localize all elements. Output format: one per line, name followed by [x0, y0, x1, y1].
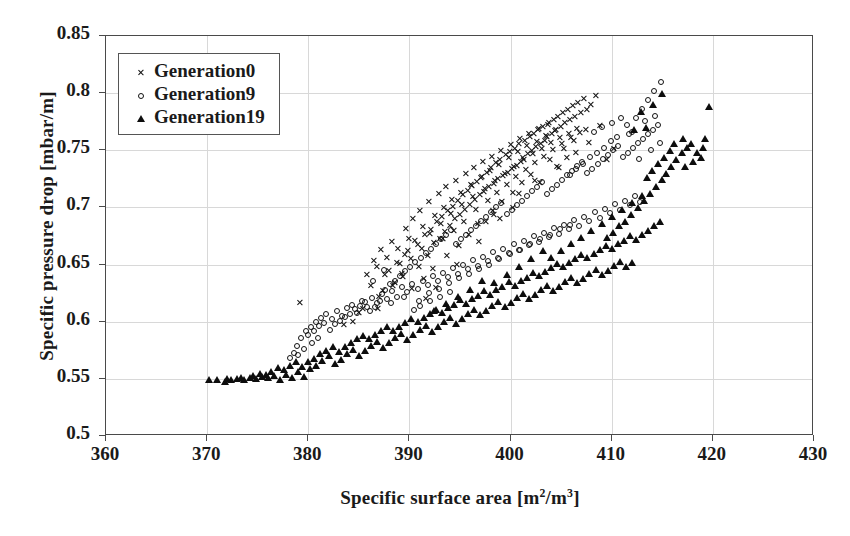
data-point-generation0: [410, 215, 417, 222]
y-axis-tick: [99, 321, 105, 322]
data-point-generation0: [399, 270, 406, 277]
data-point-generation19: [246, 374, 254, 381]
data-point-generation9: [498, 200, 504, 206]
data-point-generation0: [519, 154, 526, 161]
data-point-generation9: [392, 278, 398, 284]
data-point-generation9: [546, 234, 552, 240]
data-point-generation19: [585, 270, 593, 277]
data-point-generation19: [341, 343, 349, 350]
data-point-generation9: [448, 227, 454, 233]
data-point-generation9: [394, 294, 400, 300]
data-point-generation9: [367, 308, 373, 314]
x-axis-title-bracket: ]: [573, 487, 580, 508]
data-point-generation0: [363, 271, 370, 278]
data-point-generation9: [620, 154, 626, 160]
data-point-generation0: [494, 189, 501, 196]
data-point-generation0: [475, 220, 482, 227]
data-point-generation9: [370, 278, 376, 284]
grid-line-vertical: [308, 36, 309, 434]
data-point-generation19: [428, 328, 436, 335]
data-point-generation9: [551, 225, 557, 231]
legend-item-generation0[interactable]: Generation0: [128, 59, 265, 82]
y-axis-tick-label: 0.65: [0, 251, 90, 273]
data-point-generation9: [605, 152, 611, 158]
data-point-generation19: [486, 291, 494, 298]
data-point-generation0: [584, 106, 591, 113]
data-point-generation19: [353, 335, 361, 342]
data-point-generation0: [567, 116, 574, 123]
data-point-generation9: [637, 199, 643, 205]
x-axis-tick-label: 380: [272, 443, 342, 465]
data-point-generation0: [520, 156, 527, 163]
data-point-generation9: [652, 113, 658, 119]
data-point-generation9: [591, 129, 597, 135]
data-point-generation9: [537, 236, 543, 242]
data-point-generation0: [447, 210, 454, 217]
data-point-generation19: [656, 218, 664, 225]
data-point-generation9: [309, 340, 315, 346]
data-point-generation19: [689, 158, 697, 165]
data-point-generation9: [397, 273, 403, 279]
data-point-generation9: [527, 241, 533, 247]
data-point-generation0: [433, 218, 440, 225]
data-point-generation9: [500, 246, 506, 252]
data-point-generation19: [391, 334, 399, 341]
legend-item-generation9[interactable]: Generation9: [128, 82, 265, 105]
data-point-generation0: [527, 171, 534, 178]
data-point-generation0: [515, 190, 522, 197]
data-point-generation9: [595, 161, 601, 167]
data-point-generation19: [687, 140, 695, 147]
data-point-generation9: [645, 131, 651, 137]
data-point-generation9: [435, 278, 441, 284]
y-axis-tick: [99, 35, 105, 36]
data-point-generation0: [392, 279, 399, 286]
data-point-generation9: [564, 172, 570, 178]
chart-figure: Specific pressure drop [mbar/m] Specific…: [0, 0, 850, 536]
data-point-generation19: [596, 246, 604, 253]
data-point-generation9: [476, 266, 482, 272]
chart-legend[interactable]: Generation0Generation9Generation19: [118, 53, 280, 135]
data-point-generation9: [374, 300, 380, 306]
data-point-generation9: [547, 232, 553, 238]
data-point-generation0: [470, 193, 477, 200]
data-point-generation0: [526, 133, 533, 140]
data-point-generation9: [571, 217, 577, 223]
x-axis-tick: [307, 435, 308, 441]
data-point-generation0: [478, 174, 485, 181]
data-point-generation0: [454, 197, 461, 204]
data-point-generation9: [587, 154, 593, 160]
data-point-generation19: [432, 306, 440, 313]
data-point-generation19: [604, 267, 612, 274]
data-point-generation0: [577, 129, 584, 136]
data-point-generation0: [588, 101, 595, 108]
data-point-generation9: [529, 188, 535, 194]
data-point-generation0: [571, 137, 578, 144]
data-point-generation19: [627, 211, 635, 218]
data-point-generation0: [491, 211, 498, 218]
data-point-generation0: [465, 187, 472, 194]
data-point-generation19: [227, 376, 235, 383]
data-point-generation9: [639, 106, 645, 112]
data-point-generation19: [438, 309, 446, 316]
data-point-generation19: [329, 343, 337, 350]
data-point-generation0: [390, 282, 397, 289]
data-point-generation0: [515, 140, 522, 147]
data-point-generation19: [535, 272, 543, 279]
data-point-generation0: [575, 99, 582, 106]
data-point-generation19: [638, 192, 646, 199]
data-point-generation0: [518, 179, 525, 186]
data-point-generation9: [567, 222, 573, 228]
data-point-generation9: [531, 233, 537, 239]
data-point-generation9: [580, 161, 586, 167]
data-point-generation19: [577, 234, 585, 241]
data-point-generation0: [564, 154, 571, 161]
legend-item-generation19[interactable]: Generation19: [128, 105, 265, 128]
data-point-generation19: [480, 287, 488, 294]
data-point-generation0: [525, 130, 532, 137]
data-point-generation19: [274, 364, 282, 371]
y-axis-tick-label: 0.5: [0, 422, 90, 444]
data-point-generation0: [451, 215, 458, 222]
data-point-generation0: [554, 163, 561, 170]
data-point-generation0: [443, 252, 450, 259]
data-point-generation19: [616, 258, 624, 265]
